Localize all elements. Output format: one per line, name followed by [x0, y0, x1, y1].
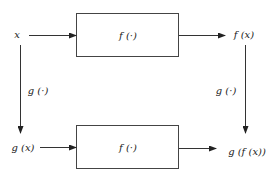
bottom-box-label: f (·) [118, 142, 137, 153]
top-box-label: f (·) [118, 30, 137, 41]
commutative-diagram: f (·) f (·) x f (x) g (·) g (·) g (x) g … [0, 0, 276, 180]
bottom-output-label: g (f (x)) [228, 146, 266, 157]
diagram-canvas: f (·) f (·) x f (x) g (·) g (·) g (x) g … [0, 0, 276, 180]
input-x-label: x [14, 29, 20, 40]
left-edge-label: g (·) [28, 85, 49, 96]
right-edge-label: g (·) [216, 85, 237, 96]
bottom-input-label: g (x) [11, 142, 34, 153]
top-output-label: f (x) [233, 29, 254, 40]
